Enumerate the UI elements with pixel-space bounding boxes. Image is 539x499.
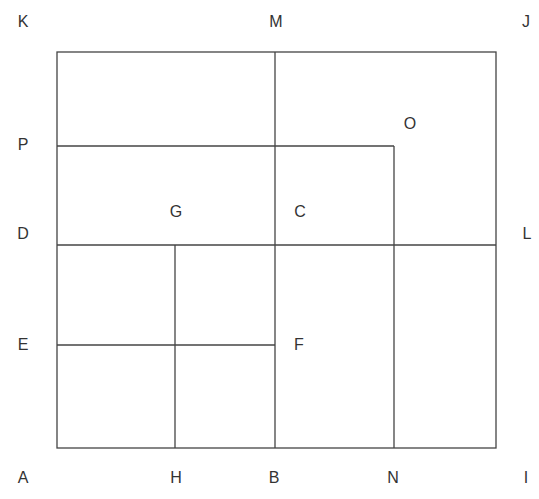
partition-lines	[57, 52, 496, 448]
label-i: I	[524, 470, 528, 486]
label-d: D	[17, 226, 29, 242]
label-h: H	[170, 470, 182, 486]
label-b: B	[269, 470, 280, 486]
label-l: L	[523, 226, 532, 242]
label-c: C	[294, 204, 306, 220]
label-o: O	[404, 116, 416, 132]
label-n: N	[387, 470, 399, 486]
label-k: K	[18, 14, 29, 30]
label-j: J	[522, 14, 530, 30]
label-e: E	[18, 337, 29, 353]
label-g: G	[170, 204, 182, 220]
label-f: F	[294, 337, 304, 353]
diagram-canvas	[0, 0, 539, 499]
outer-rectangle	[57, 52, 496, 448]
label-p: P	[18, 137, 29, 153]
label-a: A	[18, 470, 29, 486]
label-m: M	[269, 14, 282, 30]
